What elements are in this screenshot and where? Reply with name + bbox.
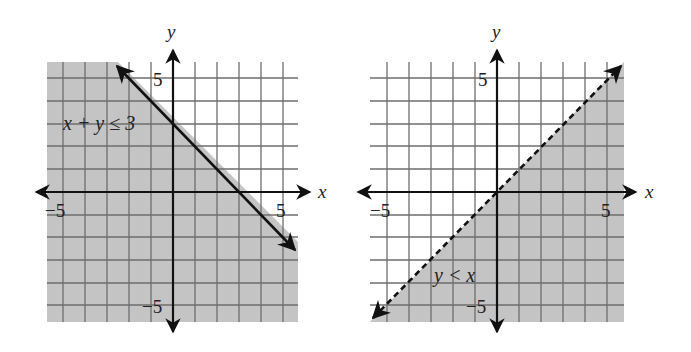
right-graph: y x −5 5 5 −5 y < x	[358, 21, 654, 332]
right-tick-label-x-neg5: −5	[370, 200, 390, 221]
inequality-graphs: y x −5 5 5 −5 x + y ≤ 3 y x	[0, 0, 691, 352]
left-tick-label-x-neg5: −5	[45, 200, 65, 221]
left-graph: y x −5 5 5 −5 x + y ≤ 3	[36, 21, 327, 332]
left-tick-label-y-neg5: −5	[142, 296, 162, 317]
right-x-axis-label: x	[644, 181, 654, 202]
right-y-axis-label: y	[490, 21, 501, 42]
left-inequality-label: x + y ≤ 3	[62, 112, 135, 135]
right-tick-label-y-neg5: −5	[466, 296, 486, 317]
right-inequality-label: y < x	[432, 264, 475, 287]
right-tick-label-x-5: 5	[601, 200, 611, 221]
left-tick-label-x-5: 5	[276, 200, 286, 221]
left-y-axis-label: y	[165, 21, 176, 42]
right-tick-label-y-5: 5	[478, 69, 488, 90]
left-tick-label-y-5: 5	[153, 69, 163, 90]
left-x-axis-label: x	[317, 181, 327, 202]
